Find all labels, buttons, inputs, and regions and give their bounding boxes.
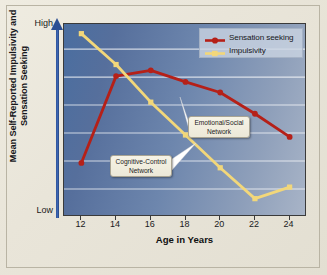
annotation-cognitive-control: Cognitive-Control Network [110, 155, 172, 177]
chart-figure: Mean Self-Reported Impulsivity and Sensa… [0, 0, 327, 275]
annotation-emotional-line2: Network [192, 128, 246, 137]
annotation-emotional-line1: Emotional/Social [192, 119, 246, 128]
annotation-cognitive-line2: Network [114, 167, 168, 176]
callout-leader-lines [0, 0, 327, 275]
annotation-cognitive-line1: Cognitive-Control [114, 158, 168, 167]
annotation-emotional-social: Emotional/Social Network [188, 116, 250, 138]
